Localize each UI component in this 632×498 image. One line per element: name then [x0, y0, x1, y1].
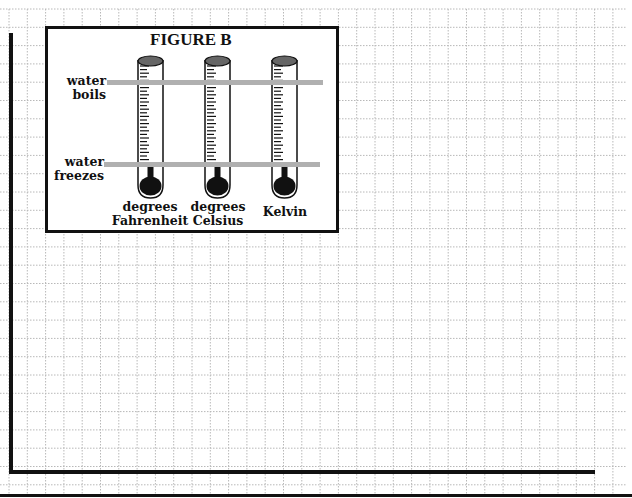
water-freezes-band	[104, 162, 320, 167]
boils-label-line2: boils	[62, 87, 106, 102]
figure-title: FIGURE B	[150, 30, 232, 50]
freezes-label-line1: water	[50, 154, 104, 169]
kelvin-label: Kelvin	[245, 204, 325, 219]
boils-label-line1: water	[62, 73, 106, 88]
freezes-label-line2: freezes	[50, 168, 104, 183]
water-boils-band	[107, 80, 323, 85]
